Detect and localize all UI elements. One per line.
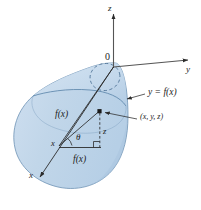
curve-equation-label: y = f(x): [148, 88, 177, 98]
y-axis-label: y: [186, 65, 190, 74]
angle-label: θ: [76, 133, 80, 142]
origin-label: 0: [105, 52, 110, 62]
point-label: (x, y, z): [140, 113, 163, 121]
radius-lower-label: f(x): [73, 155, 86, 165]
y-axis-line: [114, 60, 189, 67]
z-axis-label: z: [108, 4, 112, 13]
figure-container: z y x 0 y = f(x) (x, y, z) f(x) f(x) z θ…: [0, 0, 201, 210]
height-label: z: [103, 127, 106, 136]
x-axis-label: x: [29, 171, 33, 180]
x-leg-label: x: [51, 139, 55, 148]
radius-upper-label: f(x): [55, 110, 68, 120]
leader-line-curve: [127, 94, 145, 99]
square-dot-icon: [97, 109, 101, 113]
